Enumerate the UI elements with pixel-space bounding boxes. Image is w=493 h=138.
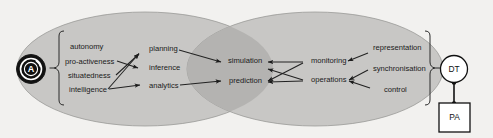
digital-twin-badge: DT	[441, 56, 468, 83]
label-pro-activeness: pro-activeness	[65, 57, 115, 66]
label-monitoring: monitoring	[311, 56, 346, 65]
label-autonomy: autonomy	[70, 42, 104, 51]
label-inference: inference	[149, 63, 180, 72]
label-simulation: simulation	[228, 56, 262, 65]
agent-icon: A	[17, 55, 46, 84]
label-situatedness: situatedness	[68, 71, 111, 80]
label-analytics: analytics	[149, 81, 179, 90]
label-control: control	[384, 85, 407, 94]
physical-asset-badge-label: PA	[449, 112, 460, 122]
label-intelligence: intelligence	[69, 85, 107, 94]
diagram-canvas: A	[0, 0, 493, 138]
label-prediction: prediction	[229, 76, 262, 85]
digital-twin-badge-label: DT	[448, 64, 459, 74]
label-planning: planning	[149, 44, 178, 53]
dt-pa-link	[452, 80, 457, 106]
agent-icon-letter: A	[28, 64, 35, 74]
label-operations: operations	[311, 75, 347, 84]
label-synchronisation: synchronisation	[373, 64, 426, 73]
physical-asset-badge: PA	[439, 103, 470, 132]
label-representation: representation	[373, 43, 422, 52]
